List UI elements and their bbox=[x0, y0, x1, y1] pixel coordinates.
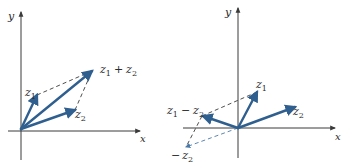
right-parallelogram-side-top bbox=[202, 92, 257, 116]
right-label-neg-z2: −z2 bbox=[171, 149, 193, 164]
right-label-z2: z2 bbox=[292, 105, 304, 120]
right-label-difference: z1−z2 bbox=[166, 104, 204, 119]
left-label-sum: z1+z2 bbox=[99, 63, 137, 78]
right-vector-difference bbox=[203, 116, 238, 128]
right-diagram-subtraction: y x z1 z2 z1−z2 −z2 bbox=[166, 6, 341, 164]
right-y-axis-label: y bbox=[224, 6, 232, 19]
left-parallelogram-side-top bbox=[37, 71, 92, 95]
right-parallelogram-side-left bbox=[186, 116, 202, 147]
right-vector-neg-z2 bbox=[186, 128, 238, 147]
left-diagram-addition: y x z1 z2 z1+z2 bbox=[7, 10, 146, 160]
left-y-axis-label: y bbox=[7, 10, 15, 23]
left-label-z2: z2 bbox=[74, 108, 86, 123]
right-x-axis-label: x bbox=[335, 131, 341, 142]
left-label-z1: z1 bbox=[24, 86, 36, 101]
right-label-z1: z1 bbox=[255, 78, 267, 93]
vector-diagram-canvas: y x z1 z2 z1+z2 y x bbox=[0, 0, 342, 166]
left-x-axis-label: x bbox=[140, 133, 146, 144]
